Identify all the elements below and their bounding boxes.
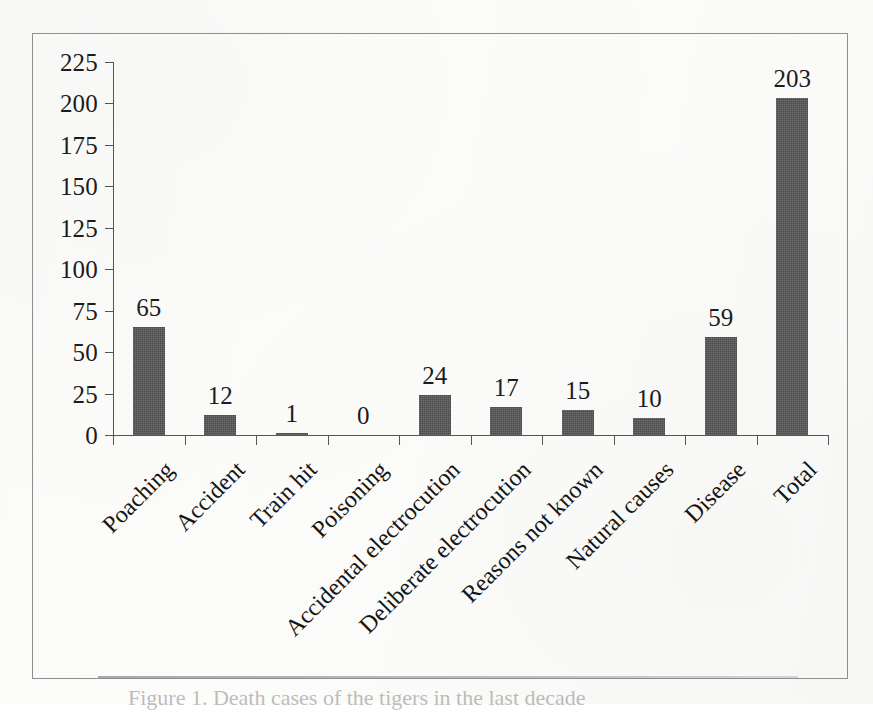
- bar[interactable]: [633, 418, 665, 435]
- y-axis-tick-label: 25: [32, 382, 98, 407]
- y-axis-tick: [105, 394, 113, 395]
- caption-divider-rule: [98, 676, 798, 678]
- bar-value-label: 59: [671, 305, 771, 330]
- y-axis-tick: [105, 435, 113, 436]
- y-axis-tick-label: 225: [32, 50, 98, 75]
- x-axis-tick: [328, 436, 329, 445]
- y-axis-tick: [105, 228, 113, 229]
- x-axis-tick: [256, 436, 257, 445]
- y-axis-tick-label: 75: [32, 299, 98, 324]
- y-axis-tick: [105, 145, 113, 146]
- bar[interactable]: [562, 410, 594, 435]
- y-axis-tick-label: 175: [32, 133, 98, 158]
- x-axis-tick: [542, 436, 543, 445]
- x-axis-tick: [113, 436, 114, 445]
- x-axis-tick: [399, 436, 400, 445]
- bar[interactable]: [133, 327, 165, 435]
- bar-value-label: 203: [742, 66, 842, 91]
- bar[interactable]: [776, 98, 808, 435]
- x-axis-tick: [185, 436, 186, 445]
- x-axis-tick: [471, 436, 472, 445]
- bar[interactable]: [276, 433, 308, 435]
- y-axis-tick: [105, 103, 113, 104]
- bar[interactable]: [419, 395, 451, 435]
- y-axis-tick: [105, 352, 113, 353]
- bar-value-label: 0: [313, 403, 413, 428]
- bar-value-label: 65: [99, 295, 199, 320]
- figure-caption: Figure 1. Death cases of the tigers in t…: [128, 686, 828, 710]
- x-axis-tick: [614, 436, 615, 445]
- y-axis-tick-label: 125: [32, 216, 98, 241]
- bar-value-label: 10: [599, 386, 699, 411]
- x-axis-tick: [828, 436, 829, 445]
- y-axis-tick-label: 150: [32, 174, 98, 199]
- y-axis-tick: [105, 186, 113, 187]
- x-axis-tick: [685, 436, 686, 445]
- y-axis-tick-label: 200: [32, 91, 98, 116]
- bar[interactable]: [490, 407, 522, 435]
- x-axis-tick: [757, 436, 758, 445]
- y-axis-tick-label: 0: [32, 423, 98, 448]
- y-axis-tick-label: 50: [32, 340, 98, 365]
- bar[interactable]: [204, 415, 236, 435]
- y-axis-tick-label: 100: [32, 257, 98, 282]
- bar-chart-plot-area: 6512102417151059203: [113, 62, 828, 435]
- bar[interactable]: [705, 337, 737, 435]
- y-axis-tick: [105, 269, 113, 270]
- y-axis-tick: [105, 62, 113, 63]
